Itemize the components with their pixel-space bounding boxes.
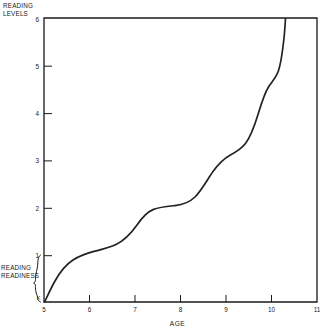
y-axis-title: READING LEVELS xyxy=(3,2,49,18)
x-axis-tick-labels: 5 6 7 8 9 10 11 xyxy=(42,306,321,313)
x-tick-label-7: 7 xyxy=(133,306,137,313)
y-tick-label-5: 5 xyxy=(35,63,39,70)
x-tick-label-8: 8 xyxy=(179,306,183,313)
x-axis-label-text: AGE xyxy=(170,320,185,327)
y-tick-label-4: 4 xyxy=(35,110,39,117)
y-axis-tick-labels: 1 2 3 4 5 6 xyxy=(35,16,39,260)
y-axis-ticks xyxy=(44,66,52,256)
x-axis-label: AGE xyxy=(0,320,333,327)
reading-level-curve xyxy=(45,19,286,303)
reading-levels-figure: READING LEVELS READING READINESS 1 2 3 4… xyxy=(0,0,333,335)
x-tick-label-11: 11 xyxy=(314,306,321,313)
x-tick-label-9: 9 xyxy=(224,306,228,313)
y-tick-label-2: 2 xyxy=(35,205,39,212)
y-tick-label-3: 3 xyxy=(35,157,39,164)
x-axis-ticks xyxy=(90,295,272,302)
plot-border xyxy=(44,18,317,302)
x-tick-label-6: 6 xyxy=(88,306,92,313)
reading-readiness-label: READING READINESS xyxy=(1,264,43,280)
x-tick-label-5: 5 xyxy=(42,306,46,313)
x-tick-label-10: 10 xyxy=(268,306,276,313)
axis-frame xyxy=(44,18,317,302)
chart-plot-area: 1 2 3 4 5 6 5 6 7 8 9 10 11 K xyxy=(0,0,333,335)
figure-caption xyxy=(2,329,333,335)
